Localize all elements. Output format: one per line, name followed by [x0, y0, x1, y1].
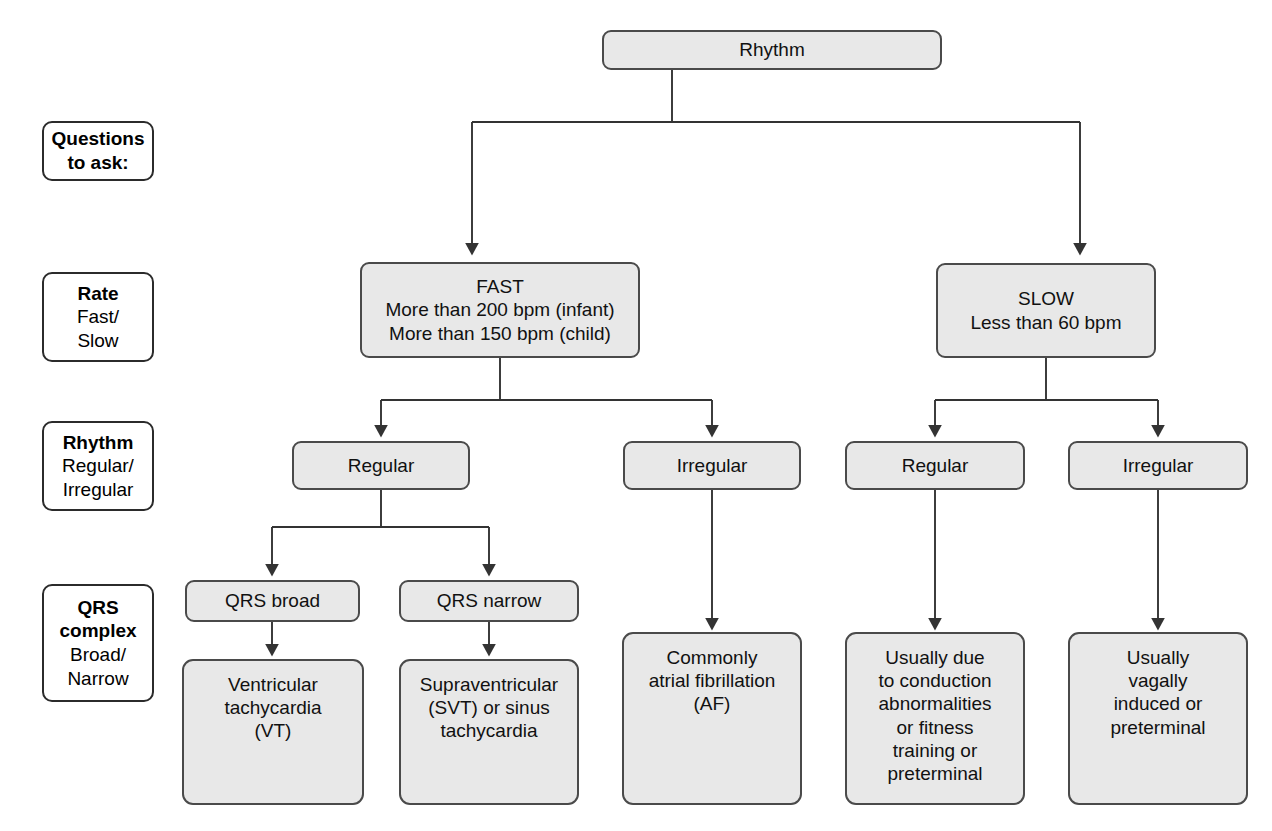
- stage-label-rhythm-line2: Regular/: [62, 454, 134, 478]
- node-fast-irregular-label: Irregular: [677, 454, 748, 477]
- node-slow-irregular-label: Irregular: [1123, 454, 1194, 477]
- node-result-svt[interactable]: Supraventricular (SVT) or sinus tachycar…: [399, 659, 579, 805]
- node-result-vt-label: Ventricular tachycardia (VT): [224, 673, 321, 743]
- stage-label-rate-line2: Fast/: [77, 305, 119, 329]
- stage-label-questions-header: Questions: [52, 127, 145, 151]
- node-result-conduction[interactable]: Usually due to conduction abnormalities …: [845, 632, 1025, 805]
- stage-label-rhythm-header: Rhythm: [63, 431, 134, 455]
- node-slow-regular[interactable]: Regular: [845, 441, 1025, 490]
- node-result-svt-label: Supraventricular (SVT) or sinus tachycar…: [420, 673, 558, 743]
- stage-label-rate-header: Rate: [77, 282, 118, 306]
- stage-label-qrs-line3: Narrow: [67, 667, 128, 691]
- stage-label-rate: Rate Fast/ Slow: [42, 272, 154, 362]
- node-fast-regular[interactable]: Regular: [292, 441, 470, 490]
- node-slow-regular-label: Regular: [902, 454, 969, 477]
- stage-label-rhythm: Rhythm Regular/ Irregular: [42, 421, 154, 511]
- stage-label-rhythm-line3: Irregular: [63, 478, 134, 502]
- node-slow-label: SLOW Less than 60 bpm: [970, 287, 1121, 333]
- node-rhythm-root[interactable]: Rhythm: [602, 30, 942, 70]
- node-fast-irregular[interactable]: Irregular: [623, 441, 801, 490]
- node-slow-irregular[interactable]: Irregular: [1068, 441, 1248, 490]
- node-slow[interactable]: SLOW Less than 60 bpm: [936, 263, 1156, 358]
- node-fast-regular-label: Regular: [348, 454, 415, 477]
- node-qrs-broad-label: QRS broad: [225, 589, 320, 612]
- node-result-vt[interactable]: Ventricular tachycardia (VT): [182, 659, 364, 805]
- stage-label-qrs-line2: Broad/: [70, 643, 126, 667]
- stage-label-qrs: QRS complex Broad/ Narrow: [42, 584, 154, 702]
- node-result-conduction-label: Usually due to conduction abnormalities …: [878, 646, 991, 785]
- node-qrs-narrow-label: QRS narrow: [437, 589, 542, 612]
- node-result-vagal[interactable]: Usually vagally induced or preterminal: [1068, 632, 1248, 805]
- node-fast-label: FAST More than 200 bpm (infant) More tha…: [385, 275, 614, 345]
- node-result-vagal-label: Usually vagally induced or preterminal: [1110, 646, 1205, 739]
- node-fast[interactable]: FAST More than 200 bpm (infant) More tha…: [360, 262, 640, 358]
- stage-label-rate-line3: Slow: [77, 329, 118, 353]
- stage-label-questions: Questions to ask:: [42, 121, 154, 181]
- flowchart-canvas: Questions to ask: Rate Fast/ Slow Rhythm…: [0, 0, 1272, 831]
- node-result-af-label: Commonly atrial fibrillation (AF): [649, 646, 776, 716]
- node-rhythm-root-label: Rhythm: [739, 38, 804, 61]
- node-result-af[interactable]: Commonly atrial fibrillation (AF): [622, 632, 802, 805]
- node-qrs-broad[interactable]: QRS broad: [185, 580, 360, 622]
- node-qrs-narrow[interactable]: QRS narrow: [399, 580, 579, 622]
- stage-label-qrs-header2: complex: [59, 619, 136, 643]
- stage-label-qrs-header: QRS: [77, 596, 118, 620]
- stage-label-questions-line2: to ask:: [67, 151, 128, 175]
